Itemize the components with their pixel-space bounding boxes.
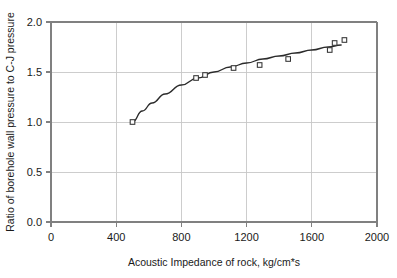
data-point-marker xyxy=(332,41,337,46)
data-point-marker xyxy=(257,63,262,68)
data-point-marker xyxy=(327,48,332,53)
x-tick-label: 2000 xyxy=(365,231,389,243)
data-point-marker xyxy=(130,120,135,125)
y-axis-ticks xyxy=(46,22,51,222)
data-point-marker xyxy=(194,76,199,81)
x-tick-label: 1600 xyxy=(300,231,324,243)
y-axis-title: Ratio of borehole wall pressure to C-J p… xyxy=(4,12,16,232)
data-point-markers xyxy=(130,38,347,125)
y-tick-label: 0.0 xyxy=(27,216,42,228)
chart-figure: 0.00.51.01.52.0 0400800120016002000 Acou… xyxy=(0,0,397,278)
y-tick-label: 2.0 xyxy=(27,16,42,28)
x-axis-title: Acoustic Impedance of rock, kg/cm*s xyxy=(128,256,300,268)
data-point-marker xyxy=(286,57,291,62)
scatter-plot: 0.00.51.01.52.0 0400800120016002000 Acou… xyxy=(0,0,397,278)
y-tick-label: 1.5 xyxy=(27,66,42,78)
fitted-curve xyxy=(133,45,342,122)
data-point-marker xyxy=(231,66,236,71)
data-point-marker xyxy=(342,38,347,43)
x-tick-label: 1200 xyxy=(234,231,258,243)
x-axis-ticks xyxy=(51,222,377,227)
x-tick-label: 0 xyxy=(48,231,54,243)
x-tick-label: 800 xyxy=(172,231,190,243)
y-tick-label: 1.0 xyxy=(27,116,42,128)
data-point-marker xyxy=(203,73,208,78)
y-tick-labels: 0.00.51.01.52.0 xyxy=(27,16,42,228)
x-tick-labels: 0400800120016002000 xyxy=(48,231,389,243)
x-tick-label: 400 xyxy=(107,231,125,243)
y-tick-label: 0.5 xyxy=(27,166,42,178)
